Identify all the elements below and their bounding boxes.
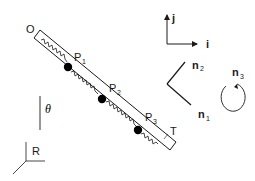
body-vectors: n 2 n 1 <box>167 59 210 122</box>
particle-p2 <box>98 95 106 103</box>
spring-p2-p3 <box>106 101 137 127</box>
svg-text:n: n <box>192 59 199 71</box>
end-leader-line <box>164 134 168 139</box>
svg-text:2: 2 <box>117 89 121 96</box>
reference-frame-r: R <box>13 142 45 174</box>
label-n1: n 1 <box>198 108 210 122</box>
svg-text:1: 1 <box>82 58 86 65</box>
n1-vector <box>167 84 191 105</box>
svg-text:1: 1 <box>206 115 210 122</box>
particle-p1 <box>64 63 72 71</box>
label-end: T <box>170 125 177 137</box>
label-p1: P 1 <box>74 51 86 65</box>
svg-text:P: P <box>109 82 116 94</box>
label-i: i <box>206 38 209 50</box>
svg-text:P: P <box>145 111 152 123</box>
svg-text:n: n <box>198 108 205 120</box>
svg-text:3: 3 <box>153 118 157 125</box>
inertial-axes: j i <box>167 12 209 50</box>
spring-o-p1 <box>41 39 67 62</box>
rotation-arrowhead-icon <box>234 84 238 89</box>
svg-text:P: P <box>74 51 81 63</box>
label-theta: θ <box>45 102 51 116</box>
label-n3: n 3 <box>232 66 244 80</box>
rotation-arc-icon <box>221 84 245 111</box>
svg-text:3: 3 <box>240 73 244 80</box>
particle-p3 <box>134 126 142 134</box>
n2-vector <box>167 62 185 84</box>
label-j: j <box>171 12 175 24</box>
label-r: R <box>32 145 40 157</box>
label-n2: n 2 <box>192 59 204 72</box>
n3-rotation: n 3 <box>221 66 245 111</box>
svg-text:2: 2 <box>200 65 204 72</box>
label-p2: P 2 <box>109 82 121 96</box>
tube-particle-spring-diagram: O T θ P 1 P 2 P 3 j i n 2 n 1 <box>0 0 255 181</box>
label-origin: O <box>26 23 35 35</box>
label-p3: P 3 <box>145 111 157 125</box>
svg-text:n: n <box>232 66 239 78</box>
